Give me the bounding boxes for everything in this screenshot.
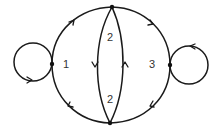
label-right: 3	[149, 58, 155, 70]
label-left: 1	[63, 58, 69, 70]
edge-bottom-to-left	[52, 64, 110, 123]
edge-left-to-top	[52, 7, 112, 64]
edge-right-to-bottom	[110, 65, 170, 123]
node-top	[110, 5, 114, 9]
arrow-bottom-to-left-icon	[68, 102, 73, 107]
edge-bottom-to-top	[110, 7, 123, 123]
node-right	[168, 63, 172, 67]
right-self-loop	[170, 46, 208, 84]
edge-top-to-bottom	[97, 7, 112, 123]
node-left	[50, 62, 54, 66]
left-self-loop	[14, 43, 52, 81]
label-inner-top: 2	[107, 31, 113, 43]
node-bottom	[108, 121, 112, 125]
graph-diagram: 1 3 2 2	[0, 0, 222, 129]
label-inner-bottom: 2	[107, 93, 113, 105]
